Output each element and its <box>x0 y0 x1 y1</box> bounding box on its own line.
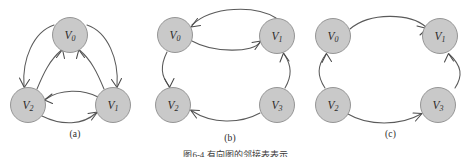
graph-panel-b: V0 V1 V2 V3 (b) <box>150 0 310 157</box>
subcaption-a: (a) <box>0 129 150 139</box>
edge-a-v1-to-v0 <box>77 50 105 89</box>
graph-panel-a: V0 V2 V1 (a) <box>0 0 150 157</box>
edge-a-v1-to-v2 <box>45 91 99 103</box>
graph-c-canvas: V0 V1 V2 V3 <box>310 0 471 130</box>
subcaption-b: (b) <box>150 133 310 143</box>
edge-a-v0-to-v1 <box>87 25 122 88</box>
edge-b-v0-to-v1 <box>192 41 261 50</box>
edge-a-v0-to-v2 <box>20 25 55 88</box>
node-b-v3[interactable]: V3 <box>260 88 295 123</box>
node-a-v2[interactable]: V2 <box>11 88 46 123</box>
edge-c-v2-to-v0 <box>319 54 331 89</box>
node-c-v2[interactable]: V2 <box>316 88 351 123</box>
figure-container: V0 V2 V1 (a) <box>0 0 471 157</box>
graph-b-canvas: V0 V1 V2 V3 <box>150 0 310 130</box>
node-c-v1[interactable]: V1 <box>423 19 458 54</box>
edge-b-v0-to-v2 <box>162 52 174 88</box>
node-b-v1[interactable]: V1 <box>260 19 295 54</box>
edge-b-v3-to-v2 <box>191 110 261 121</box>
node-b-v0[interactable]: V0 <box>158 18 193 53</box>
edge-c-v0-to-v1 <box>350 16 427 35</box>
graph-a-canvas: V0 V2 V1 <box>0 0 150 130</box>
node-b-v2[interactable]: V2 <box>156 88 191 123</box>
node-a-v0[interactable]: V0 <box>53 18 88 53</box>
edge-b-v1-to-v0 <box>191 9 276 27</box>
node-c-v0[interactable]: V0 <box>316 19 351 54</box>
node-a-v1[interactable]: V1 <box>96 88 131 123</box>
graph-panel-c: V0 V1 V2 V3 (c) <box>310 0 471 157</box>
edge-c-v3-to-v1 <box>445 54 461 89</box>
edge-c-v2-to-v3 <box>348 113 422 123</box>
subcaption-c: (c) <box>310 129 471 139</box>
edge-a-v2-to-v1 <box>42 112 98 123</box>
node-c-v3[interactable]: V3 <box>421 88 456 123</box>
edge-b-v3-to-v1 <box>280 53 290 88</box>
edge-a-v2-to-v0 <box>37 50 65 90</box>
figure-caption: 图6-4 有向图的邻接表表示 <box>0 148 471 157</box>
